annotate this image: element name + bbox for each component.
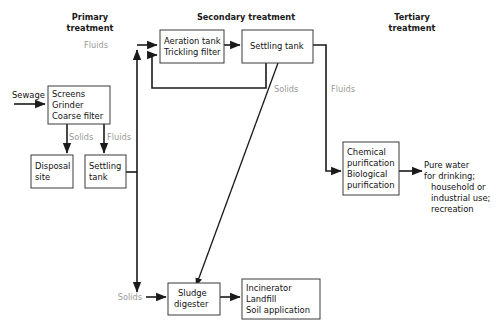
label-pure-water-line4: industrial use; bbox=[431, 193, 490, 203]
flow-diagram-canvas: Primary treatment Secondary treatment Te… bbox=[0, 0, 497, 333]
connector-solids-to-digester-diagonal bbox=[196, 63, 278, 286]
box-settling-tank-secondary-line1: Settling tank bbox=[250, 41, 304, 51]
label-fluids-to-tertiary: Fluids bbox=[331, 84, 355, 94]
box-purification-line4: purification bbox=[347, 180, 394, 190]
box-purification-line1: Chemical bbox=[347, 147, 386, 157]
box-aeration-tank-line2: Trickling filter bbox=[163, 47, 221, 57]
section-title-primary: Primary treatment bbox=[67, 12, 114, 33]
box-disposal-methods-line3: Soil application bbox=[246, 305, 310, 315]
label-pure-water-line5: recreation bbox=[431, 204, 474, 214]
box-screens[interactable]: Screens Grinder Coarse filter bbox=[48, 86, 110, 124]
label-pure-water: Pure water for drinking; household or in… bbox=[424, 160, 490, 214]
box-disposal-methods-line2: Landfill bbox=[246, 294, 276, 304]
box-screens-line1: Screens bbox=[52, 89, 85, 99]
section-title-secondary: Secondary treatment bbox=[197, 12, 295, 22]
wastewater-treatment-diagram: Primary treatment Secondary treatment Te… bbox=[0, 0, 497, 333]
section-title-tertiary: Tertiary treatment bbox=[389, 12, 436, 33]
box-aeration-tank[interactable]: Aeration tank Trickling filter bbox=[160, 30, 224, 63]
box-purification-line3: Biological bbox=[347, 169, 387, 179]
section-title-tertiary-line2: treatment bbox=[389, 23, 436, 33]
label-fluids-primary: Fluids bbox=[107, 132, 131, 142]
label-fluids-to-aeration: Fluids bbox=[84, 40, 108, 50]
box-disposal-site-line2: site bbox=[35, 172, 50, 182]
box-settling-tank-primary[interactable]: Settling tank bbox=[85, 155, 126, 188]
label-pure-water-line1: Pure water bbox=[424, 160, 470, 170]
label-solids-to-digester: Solids bbox=[118, 292, 142, 302]
box-purification[interactable]: Chemical purification Biological purific… bbox=[343, 142, 399, 195]
box-settling-tank-primary-line2: tank bbox=[89, 172, 108, 182]
box-sludge-digester[interactable]: Sludge digester bbox=[168, 283, 220, 315]
box-purification-line2: purification bbox=[347, 158, 394, 168]
box-aeration-tank-line1: Aeration tank bbox=[164, 36, 221, 46]
label-solids-secondary: Solids bbox=[274, 84, 298, 94]
section-title-primary-line1: Primary bbox=[72, 12, 109, 22]
box-settling-tank-secondary[interactable]: Settling tank bbox=[242, 30, 313, 63]
section-title-tertiary-line1: Tertiary bbox=[394, 12, 430, 22]
label-pure-water-line3: household or bbox=[431, 182, 486, 192]
label-sewage: Sewage bbox=[12, 90, 45, 100]
box-disposal-site-line1: Disposal bbox=[35, 161, 70, 171]
box-screens-line2: Grinder bbox=[52, 100, 84, 110]
section-title-primary-line2: treatment bbox=[67, 23, 114, 33]
connector-fluids-to-purification bbox=[313, 45, 341, 171]
box-sludge-digester-line2: digester bbox=[174, 299, 209, 309]
label-pure-water-line2: for drinking; bbox=[424, 171, 475, 181]
box-disposal-methods-line1: Incinerator bbox=[246, 283, 292, 293]
box-sludge-digester-line1: Sludge bbox=[178, 288, 207, 298]
box-screens-line3: Coarse filter bbox=[52, 111, 104, 121]
box-disposal-methods[interactable]: Incinerator Landfill Soil application bbox=[242, 279, 320, 319]
label-solids-primary: Solids bbox=[69, 132, 93, 142]
box-settling-tank-primary-line1: Settling bbox=[89, 161, 121, 171]
box-disposal-site[interactable]: Disposal site bbox=[31, 155, 73, 188]
section-title-secondary-line1: Secondary treatment bbox=[197, 12, 295, 22]
